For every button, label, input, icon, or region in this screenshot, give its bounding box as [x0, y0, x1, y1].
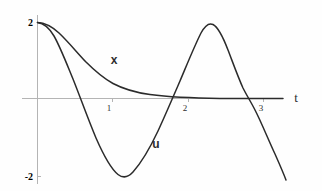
x-tick-label-2: 2	[183, 103, 188, 113]
curve-u	[38, 23, 287, 181]
x-axis-label: t	[294, 90, 298, 105]
curve-label-x: x	[111, 53, 118, 67]
x-tick-label-1: 1	[107, 103, 112, 113]
plot-figure: 1 2 3 2 -2 x u t	[0, 0, 322, 191]
y-tick-label-2: 2	[28, 17, 33, 28]
curve-label-u: u	[152, 137, 159, 151]
x-tick-label-3: 3	[259, 103, 264, 113]
y-tick-label-neg2: -2	[25, 171, 33, 182]
plot-canvas: 1 2 3 2 -2 x u t	[0, 0, 322, 191]
curve-x	[38, 23, 284, 99]
